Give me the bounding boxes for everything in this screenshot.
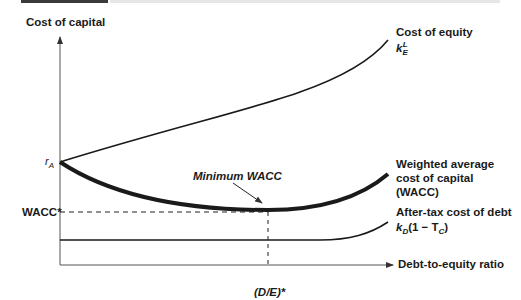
cost-of-equity-curve [60,40,388,162]
wacc-star-label: WACC* [22,206,62,219]
k-e-label: kEL [396,42,413,56]
wacc-label-line1: Weighted average [396,158,494,171]
k-d-label: kD(1 − TC) [396,221,448,235]
minimum-wacc-arrow [233,183,262,203]
wacc-label-line3: (WACC) [396,186,439,199]
x-axis-label: Debt-to-equity ratio [398,258,504,271]
after-tax-debt-curve [60,222,388,240]
minimum-wacc-label: Minimum WACC [193,170,282,183]
r-a-label: rA [45,155,54,169]
cost-of-equity-label: Cost of equity [396,26,473,39]
after-tax-debt-label: After-tax cost of debt [396,206,512,219]
y-axis-label: Cost of capital [26,16,105,29]
chart-canvas [0,0,521,300]
wacc-label-line2: cost of capital [396,172,473,185]
de-star-label: (D/E)* [254,286,285,299]
